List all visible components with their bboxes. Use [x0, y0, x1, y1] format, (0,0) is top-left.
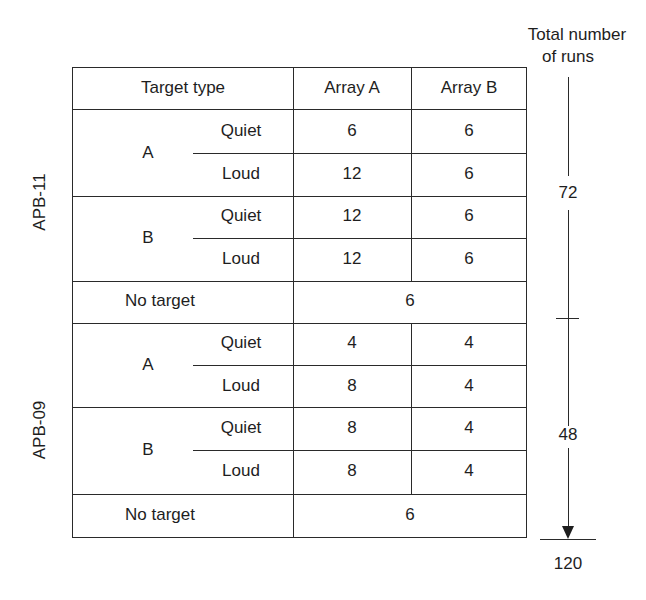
- cell-array-a: 8: [347, 418, 356, 438]
- row-divider: [72, 196, 527, 197]
- header-array-b: Array B: [441, 78, 498, 98]
- header-target-type: Target type: [141, 78, 225, 98]
- cell-array-b: 6: [464, 121, 473, 141]
- cell-array-a: 12: [343, 164, 362, 184]
- cell-array-b: 4: [464, 418, 473, 438]
- column-divider-array-b: [411, 67, 412, 281]
- cell-array-b: 6: [464, 206, 473, 226]
- subrow-divider: [193, 365, 527, 366]
- row-divider: [72, 407, 527, 408]
- no-target-value: 6: [405, 505, 414, 525]
- no-target-value: 6: [405, 291, 414, 311]
- no-target-label: No target: [125, 505, 195, 525]
- subrow-divider: [193, 238, 527, 239]
- group-label-apb-11: APB-11: [30, 173, 50, 230]
- cell-array-b: 4: [464, 461, 473, 481]
- target-type-b: B: [142, 228, 153, 248]
- condition-loud: Loud: [222, 249, 260, 269]
- row-divider: [72, 494, 527, 495]
- column-divider-array-a: [293, 67, 294, 538]
- cell-array-a: 8: [347, 461, 356, 481]
- cell-array-a: 4: [347, 333, 356, 353]
- dimension-line: [568, 448, 569, 528]
- condition-quiet: Quiet: [221, 121, 262, 141]
- segment-total-48: 48: [559, 425, 578, 445]
- condition-loud: Loud: [222, 164, 260, 184]
- group-label-apb-09: APB-09: [30, 401, 50, 460]
- grand-total-120: 120: [554, 554, 582, 574]
- row-divider: [72, 281, 527, 282]
- segment-total-72: 72: [559, 183, 578, 203]
- no-target-label: No target: [125, 291, 195, 311]
- annotation-title-line2: of runs: [542, 47, 594, 67]
- target-type-a: A: [142, 355, 153, 375]
- target-type-a: A: [142, 143, 153, 163]
- cell-array-b: 6: [464, 164, 473, 184]
- header-array-a: Array A: [324, 78, 380, 98]
- dimension-line: [568, 77, 569, 176]
- annotation-title-line1: Total number: [528, 25, 626, 45]
- subrow-divider: [193, 450, 527, 451]
- cell-array-a: 6: [347, 121, 356, 141]
- cell-array-b: 4: [464, 376, 473, 396]
- cell-array-a: 12: [343, 206, 362, 226]
- cell-array-a: 12: [343, 249, 362, 269]
- subrow-divider: [193, 153, 527, 154]
- condition-loud: Loud: [222, 461, 260, 481]
- cell-array-b: 6: [464, 249, 473, 269]
- column-divider-array-b: [411, 323, 412, 494]
- condition-quiet: Quiet: [221, 333, 262, 353]
- condition-quiet: Quiet: [221, 418, 262, 438]
- cell-array-a: 8: [347, 376, 356, 396]
- target-type-b: B: [142, 440, 153, 460]
- group-divider: [72, 323, 527, 324]
- header-divider: [72, 109, 527, 110]
- dimension-tick: [556, 318, 579, 319]
- arrow-down-icon: [562, 526, 574, 539]
- condition-quiet: Quiet: [221, 206, 262, 226]
- condition-loud: Loud: [222, 376, 260, 396]
- cell-array-b: 4: [464, 333, 473, 353]
- dimension-baseline: [540, 539, 596, 540]
